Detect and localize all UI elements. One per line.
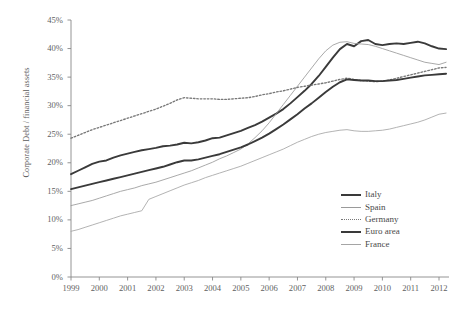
legend-item-italy[interactable]: Italy [341,188,449,200]
legend-swatch-icon [341,239,361,249]
series-line-germany [71,67,446,138]
y-axis-tick-label: 15% [29,186,63,196]
legend-swatch-icon [341,214,361,224]
x-axis-tick-label: 2012 [419,283,459,293]
legend-item-france[interactable]: France [341,238,449,250]
y-axis-tick-label: 20% [29,157,63,167]
y-axis-tick-label: 35% [29,72,63,82]
chart-container: Corporate Debt / financial assets 45%40%… [0,0,460,312]
legend-label: Euro area [365,226,400,236]
legend-swatch-icon [341,226,361,236]
y-axis-tick-label: 5% [29,243,63,253]
legend-label: Germany [365,214,399,224]
legend-label: Spain [365,202,386,212]
legend-swatch-icon [341,189,361,199]
legend-item-euro-area[interactable]: Euro area [341,225,449,237]
y-axis-tick-label: 25% [29,129,63,139]
y-axis-tick-label: 30% [29,100,63,110]
legend-item-spain[interactable]: Spain [341,200,449,212]
series-line-italy [71,40,446,174]
y-axis-ticks [68,20,72,277]
line-chart-plot [0,0,460,312]
y-axis-tick-label: 10% [29,214,63,224]
y-axis-tick-label: 40% [29,43,63,53]
x-axis-ticks [71,277,439,281]
legend-swatch-icon [341,202,361,212]
legend-label: Italy [365,189,382,199]
legend-item-germany[interactable]: Germany [341,213,449,225]
legend-label: France [365,239,390,249]
y-axis-tick-label: 0% [29,272,63,282]
series-line-euro-area [71,74,446,189]
y-axis-tick-label: 45% [29,15,63,25]
chart-legend: ItalySpainGermanyEuro areaFrance [341,188,449,250]
